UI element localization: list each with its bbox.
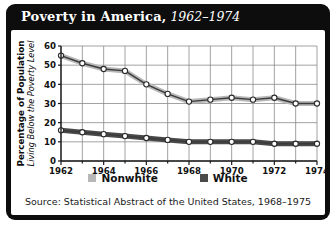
data-point-marker [272,141,277,146]
data-point-marker [293,101,298,106]
y-axis-title: Percentage of PopulationLiving Below the… [16,40,36,167]
data-point-marker [208,97,213,102]
y-axis-title-line2: Living Below the Poverty Level [26,40,36,167]
y-tick-label: 40 [44,80,56,90]
data-point-marker [250,139,255,144]
data-point-marker [122,68,127,73]
chart-title-bar: Poverty in America, 1962–1974 [6,4,330,29]
source-prefix: Source: [25,196,64,207]
y-axis-title-line1: Percentage of Population [16,40,26,166]
poverty-chart-figure: Poverty in America, 1962–1974 0102030405… [0,0,336,226]
y-tick-label: 60 [44,41,56,51]
legend-swatch-nonwhite-icon [88,174,96,182]
data-point-marker [229,139,234,144]
y-tick-label: 20 [44,118,56,128]
legend-item-white: White [200,172,248,184]
legend-swatch-white-icon [200,174,208,182]
data-point-marker [165,137,170,142]
data-point-marker [165,91,170,96]
y-tick-label: 0 [50,156,56,166]
source-citation: Statistical Abstract of the United State… [64,196,311,207]
legend-label-nonwhite: Nonwhite [101,172,157,184]
data-point-marker [186,99,191,104]
y-tick-label: 10 [44,137,56,147]
data-point-marker [80,61,85,66]
page-title: Poverty in America, [21,9,166,24]
data-point-marker [122,133,127,138]
data-point-marker [272,95,277,100]
data-point-marker [101,132,106,137]
y-tick-label: 50 [44,60,56,70]
data-point-marker [101,66,106,71]
data-point-marker [314,101,319,106]
data-point-marker [229,95,234,100]
data-point-marker [144,135,149,140]
data-point-marker [293,141,298,146]
data-point-marker [208,139,213,144]
data-point-marker [250,97,255,102]
chart-legend: Nonwhite White [11,172,325,184]
chart-source: Source: Statistical Abstract of the Unit… [11,191,325,209]
data-point-marker [314,141,319,146]
data-point-marker [144,82,149,87]
legend-item-nonwhite: Nonwhite [88,172,157,184]
y-tick-label: 30 [44,99,56,109]
line-chart-plot: 0102030405060196219641966196819701972197… [11,30,325,175]
title-year-range: 1962–1974 [170,9,240,24]
data-point-marker [186,139,191,144]
data-point-marker [80,130,85,135]
chart-panel: 0102030405060196219641966196819701972197… [11,30,325,215]
legend-label-white: White [213,172,248,184]
